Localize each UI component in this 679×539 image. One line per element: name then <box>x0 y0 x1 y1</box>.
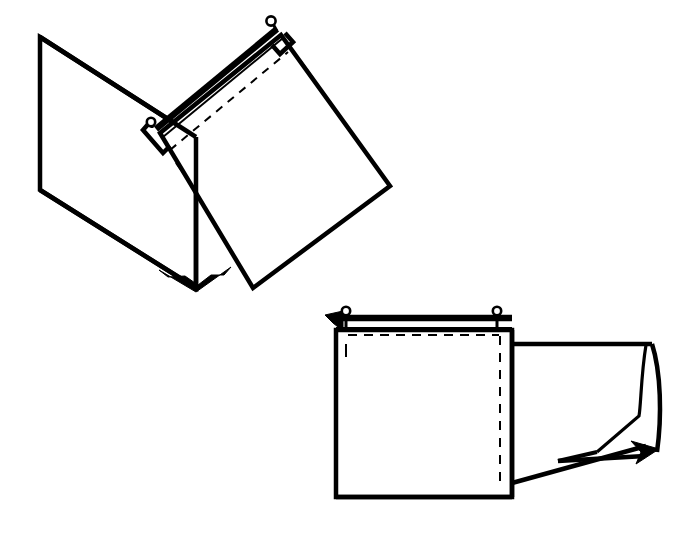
lower-left-pin-head <box>342 307 350 315</box>
upper-left-pin-head <box>147 118 155 126</box>
upper-right-pin-head <box>266 16 275 25</box>
technical-drawing-figure <box>0 0 679 539</box>
lower-right-pin-head <box>493 307 501 315</box>
upper-left-pin <box>147 118 155 128</box>
front-panel-fill <box>336 330 512 497</box>
figure-canvas <box>0 0 679 539</box>
